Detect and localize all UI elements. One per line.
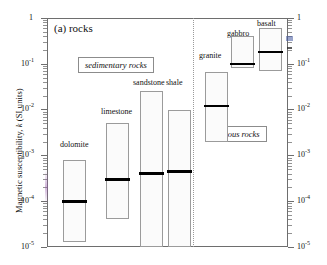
mean-line-basalt — [258, 51, 283, 54]
y-minor-tick — [43, 114, 47, 115]
y-minor-tick — [288, 203, 292, 204]
y-minor-tick — [43, 112, 47, 113]
range-bar-limestone — [106, 123, 129, 219]
y-minor-tick — [288, 215, 292, 216]
y-minor-tick — [43, 142, 47, 143]
group-divider — [193, 18, 194, 247]
y-minor-tick — [43, 28, 47, 29]
y-minor-tick — [288, 114, 292, 115]
bar-label-gabbro: gabbro — [227, 29, 249, 38]
y-minor-tick — [288, 20, 292, 21]
y-minor-tick — [43, 215, 47, 216]
y-minor-tick — [288, 208, 292, 209]
y-tick-right-1e0 — [288, 18, 294, 19]
mean-line-limestone — [105, 178, 130, 181]
bar-label-granite: granite — [199, 51, 221, 60]
y-minor-tick — [288, 25, 292, 26]
y-minor-tick — [43, 160, 47, 161]
y-minor-tick — [288, 206, 292, 207]
y-minor-tick — [43, 82, 47, 83]
y-tick-left-1e0 — [41, 18, 47, 19]
y-minor-tick — [43, 225, 47, 226]
y-minor-tick — [288, 22, 292, 23]
right-axis-artefact — [286, 36, 293, 41]
y-minor-tick — [288, 88, 292, 89]
range-bar-sandstone — [140, 91, 163, 247]
y-tick-left-1e-2 — [41, 109, 47, 110]
y-minor-tick — [43, 163, 47, 164]
y-tick-label-right-1e-4: 10-4 — [297, 197, 310, 205]
left-axis-artefact — [45, 170, 48, 204]
y-minor-tick — [43, 74, 47, 75]
y-tick-left-1e-3 — [41, 155, 47, 156]
y-tick-left-1e-5 — [41, 247, 47, 248]
y-minor-tick — [43, 123, 47, 124]
y-minor-tick — [288, 112, 292, 113]
y-minor-tick — [43, 88, 47, 89]
y-minor-tick — [288, 120, 292, 121]
y-tick-label-right-1e0: 1 — [297, 14, 301, 22]
panel-title: (a) rocks — [54, 22, 93, 34]
bar-label-shale: shale — [166, 78, 182, 87]
y-minor-tick — [43, 22, 47, 23]
mean-line-gabbro — [230, 63, 255, 66]
y-minor-tick — [288, 169, 292, 170]
y-axis-label-symbol: k — [14, 123, 24, 127]
y-minor-tick — [288, 78, 292, 79]
y-minor-tick — [43, 120, 47, 121]
y-tick-label-right-1e-5: 10-5 — [297, 243, 310, 251]
y-minor-tick — [288, 71, 292, 72]
bar-label-basalt: basalt — [257, 19, 276, 28]
y-minor-tick — [43, 36, 47, 37]
y-tick-label-right-1e-3: 10-3 — [297, 151, 310, 159]
y-minor-tick — [43, 219, 47, 220]
group-label-sedimentary: sedimentary rocks — [78, 57, 154, 73]
y-tick-right-1e-4 — [288, 201, 294, 202]
y-tick-right-1e-2 — [288, 109, 294, 110]
y-minor-tick — [288, 82, 292, 83]
y-tick-right-1e-5 — [288, 247, 294, 248]
y-minor-tick — [43, 71, 47, 72]
y-tick-label-left-1e0: 1 — [29, 14, 33, 22]
y-minor-tick — [43, 66, 47, 67]
y-minor-tick — [288, 96, 292, 97]
y-minor-tick — [43, 32, 47, 33]
y-tick-label-left-1e-5: 10-5 — [21, 243, 34, 251]
bar-label-limestone: limestone — [101, 107, 132, 116]
y-tick-label-left-1e-1: 10-1 — [21, 60, 34, 68]
y-minor-tick — [288, 142, 292, 143]
y-minor-tick — [288, 166, 292, 167]
y-minor-tick — [43, 128, 47, 129]
y-minor-tick — [288, 163, 292, 164]
right-axis-artefact-2 — [287, 47, 292, 49]
range-bar-shale — [168, 110, 191, 247]
mean-line-dolomite — [62, 200, 87, 203]
y-minor-tick — [43, 208, 47, 209]
y-minor-tick — [43, 20, 47, 21]
y-minor-tick — [43, 42, 47, 43]
y-minor-tick — [288, 187, 292, 188]
y-tick-right-1e-3 — [288, 155, 294, 156]
y-tick-right-1e-1 — [288, 64, 294, 65]
y-minor-tick — [288, 32, 292, 33]
y-minor-tick — [288, 68, 292, 69]
y-minor-tick — [288, 66, 292, 67]
y-minor-tick — [288, 42, 292, 43]
y-minor-tick — [43, 50, 47, 51]
y-minor-tick — [288, 219, 292, 220]
y-tick-left-1e-1 — [41, 64, 47, 65]
y-minor-tick — [288, 117, 292, 118]
y-tick-label-right-1e-1: 10-1 — [297, 60, 310, 68]
y-minor-tick — [43, 158, 47, 159]
y-minor-tick — [43, 68, 47, 69]
y-minor-tick — [288, 28, 292, 29]
figure-panel-a-rocks: Magnetic susceptibility, k (SI units) (a… — [0, 0, 327, 265]
y-minor-tick — [43, 166, 47, 167]
y-tick-label-left-1e-2: 10-2 — [21, 105, 34, 113]
y-minor-tick — [43, 206, 47, 207]
range-bar-basalt — [259, 28, 282, 71]
y-minor-tick — [43, 78, 47, 79]
y-minor-tick — [288, 134, 292, 135]
y-minor-tick — [288, 211, 292, 212]
y-minor-tick — [288, 225, 292, 226]
